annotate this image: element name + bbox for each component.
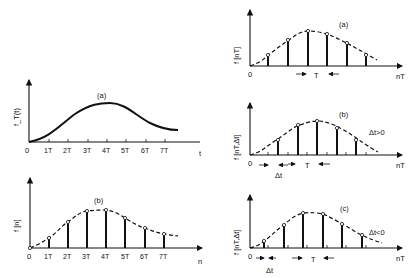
tick-label: 1T [44,253,53,260]
y-label: f [nT,Δt] [232,135,241,160]
tick-label: 5T [121,147,130,154]
origin-label: 0 [248,70,252,79]
shift-label: Δt [275,171,283,180]
tick-label: 5T [121,253,130,260]
condition-label: Δt<0 [369,228,385,237]
panel-left-b: (b) 0 1T 2T 3T 4T 5T 6T 7T n f [n] [12,178,202,266]
tick-label: 2T [63,147,72,154]
tick-label: 1T [44,147,53,154]
condition-label: Δt>0 [369,128,385,137]
x-label: t [199,149,202,158]
tick-label: 6T [140,253,149,260]
panel-label: (b) [94,196,104,205]
origin-label: 0 [248,252,252,261]
x-label: n [198,257,202,266]
continuous-signal [29,103,178,142]
origin-label: 0 [27,252,31,261]
origin-label: 0 [25,146,29,155]
tick-label: 6T [141,147,150,154]
panel-left-a: (a) 0 1T 2T 3T 4T 5T 6T 7T t f_T(t) [12,80,202,158]
tick-label: 2T [63,253,72,260]
origin-label: 0 [248,159,252,168]
panel-label: (b) [339,110,349,119]
envelope-curve [30,210,178,248]
period-label: T [314,71,319,80]
panel-label: (c) [340,204,349,213]
panel-label: (a) [97,91,107,100]
tick-label: 7T [159,253,168,260]
y-label: f [n] [12,219,21,232]
y-label: f_T(t) [12,108,21,126]
shift-label: Δt [266,266,274,275]
panel-label: (a) [339,20,349,29]
tick-label: 7T [160,147,169,154]
panel-right-b: (b) Δt>0 0 Δt T nT f [nT,Δt] [232,103,405,180]
x-label: nT [396,72,405,81]
panel-right-a: (a) 0 T nT f [nT] [232,10,405,81]
tick-label: 4T [102,147,111,154]
y-label: f [nT] [232,47,241,64]
sampling-diagram: (a) 0 1T 2T 3T 4T 5T 6T 7T t f_T(t) (b) … [0,0,414,278]
tick-label: 3T [82,253,91,260]
y-label: f [nT,Δt] [232,230,241,255]
panel-right-c: (c) Δt<0 0 Δt T nT f [nT,Δt] [232,195,405,275]
tick-label: 4T [101,253,110,260]
x-label: nT [396,254,405,263]
period-label: T [311,255,316,264]
tick-label: 3T [83,147,92,154]
x-label: nT [396,161,405,170]
period-label: T [305,161,310,170]
